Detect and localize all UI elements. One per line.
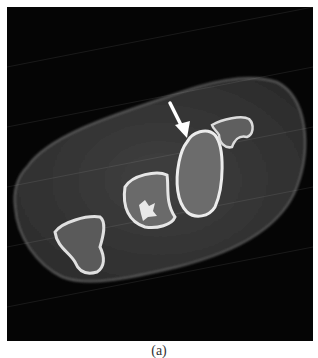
figure-caption: (a)	[0, 344, 318, 358]
bone-middle	[124, 173, 175, 227]
ct-scan-graphic	[7, 7, 313, 341]
ct-image	[7, 7, 313, 341]
